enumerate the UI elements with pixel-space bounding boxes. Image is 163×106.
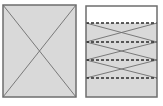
crossed-rectangle-panel: [3, 5, 76, 97]
layered-crossed-rectangle-panel: [86, 6, 157, 97]
diagram-svg: [0, 0, 163, 106]
figure-container: [0, 0, 163, 106]
right-panel-top-fill: [86, 6, 157, 23]
panels-group: [3, 5, 157, 97]
